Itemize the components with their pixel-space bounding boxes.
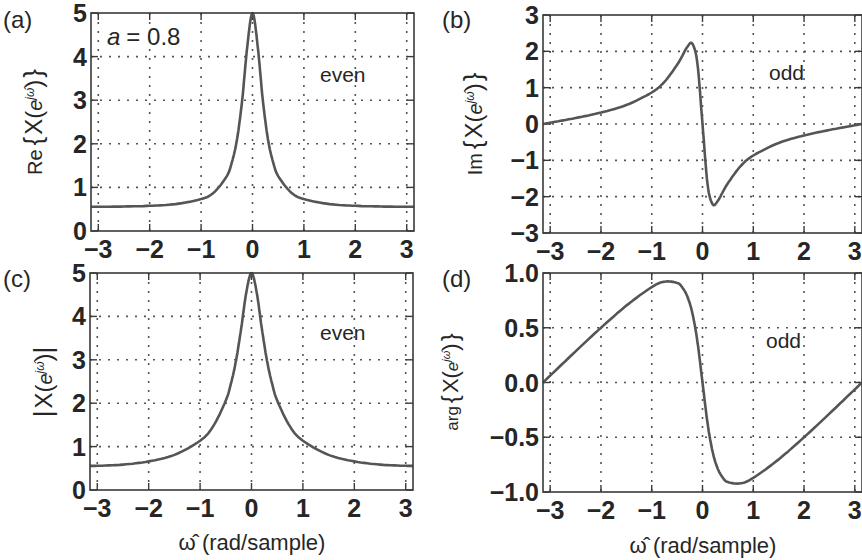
x-tick-label: −3 bbox=[536, 496, 565, 524]
x-tick-label: 1 bbox=[296, 494, 310, 522]
x-tick-label: 3 bbox=[848, 496, 862, 524]
y-tick-label: 0 bbox=[72, 476, 86, 504]
svg-text:arg{X(ejω̂)}: arg{X(ejω̂)} bbox=[436, 333, 463, 430]
y-tick-label: 3 bbox=[73, 86, 87, 114]
panel-label-d: (d) bbox=[442, 265, 471, 292]
x-tick-label: −2 bbox=[587, 496, 616, 524]
y-tick-label: 3 bbox=[525, 1, 539, 29]
x-tick-label: 3 bbox=[400, 235, 414, 263]
y-tick-label: 4 bbox=[73, 43, 87, 71]
y-tick-label: 5 bbox=[72, 259, 86, 287]
y-tick-label: −1.0 bbox=[490, 478, 539, 506]
y-tick-label: −0.5 bbox=[490, 423, 539, 451]
x-tick-label: −1 bbox=[637, 496, 666, 524]
y-tick-label: −3 bbox=[510, 219, 539, 247]
panel-d: (d) −3−2−10123 −1.0−0.50.00.51.0 odd arg… bbox=[436, 259, 862, 558]
x-tick-label: −2 bbox=[134, 494, 163, 522]
y-tick-label: −2 bbox=[510, 183, 539, 211]
parameter-label: a= 0.8 bbox=[107, 23, 180, 50]
y-tick-label: 1 bbox=[72, 433, 86, 461]
x-tick-label: 0 bbox=[696, 237, 710, 265]
x-tick-label: 3 bbox=[848, 237, 862, 265]
y-tick-labels-c: 012345 bbox=[72, 259, 86, 504]
y-tick-label: 0.0 bbox=[504, 369, 539, 397]
x-tick-labels-b: −3−2−10123 bbox=[536, 237, 862, 265]
x-tick-labels-c: −3−2−10123 bbox=[83, 494, 413, 522]
y-tick-label: 5 bbox=[73, 0, 87, 27]
panel-label-c: (c) bbox=[3, 265, 31, 292]
grid-c bbox=[90, 273, 413, 490]
x-tick-label: 2 bbox=[347, 494, 361, 522]
y-tick-label: 2 bbox=[525, 37, 539, 65]
x-tick-label: −3 bbox=[84, 235, 113, 263]
x-tick-label: −2 bbox=[135, 235, 164, 263]
y-tick-label: 2 bbox=[72, 389, 86, 417]
svg-text:Im{X(ejω̂)}: Im{X(ejω̂)} bbox=[458, 72, 488, 175]
figure: (a) −3−2−10123 012345 even a= 0.8 Re{X(e… bbox=[0, 0, 862, 560]
x-tick-labels-d: −3−2−10123 bbox=[536, 496, 862, 524]
parameter-value: = 0.8 bbox=[126, 23, 180, 50]
annotation-a-even: even bbox=[320, 63, 366, 86]
x-tick-label: 2 bbox=[797, 496, 811, 524]
x-tick-label: −1 bbox=[637, 237, 666, 265]
x-tick-label: 1 bbox=[746, 496, 760, 524]
y-tick-label: 2 bbox=[73, 130, 87, 158]
panel-a: (a) −3−2−10123 012345 even a= 0.8 Re{X(e… bbox=[3, 0, 414, 263]
svg-text:Re{X(ejω̂)}: Re{X(ejω̂)} bbox=[18, 69, 48, 175]
annotation-d-odd: odd bbox=[766, 329, 801, 352]
y-axis-label-d: arg{X(ejω̂)} bbox=[436, 333, 463, 430]
x-tick-label: −3 bbox=[536, 237, 565, 265]
y-tick-labels-d: −1.0−0.50.00.51.0 bbox=[490, 259, 539, 506]
y-tick-labels-b: −3−2−10123 bbox=[510, 1, 539, 247]
y-tick-label: −1 bbox=[510, 146, 539, 174]
y-axis-label-b: Im{X(ejω̂)} bbox=[458, 72, 488, 175]
panel-b: (b) −3−2−10123 −3−2−10123 odd Im{X(ejω̂)… bbox=[442, 1, 862, 265]
y-tick-label: 0.5 bbox=[504, 314, 539, 342]
x-tick-label: −1 bbox=[187, 235, 216, 263]
panel-label-a: (a) bbox=[3, 6, 32, 33]
y-tick-label: 1 bbox=[525, 74, 539, 102]
x-tick-label: 0 bbox=[696, 496, 710, 524]
y-tick-label: 0 bbox=[525, 110, 539, 138]
y-tick-label: 4 bbox=[72, 302, 86, 330]
panel-label-b: (b) bbox=[442, 6, 471, 33]
x-tick-label: 2 bbox=[797, 237, 811, 265]
x-tick-label: 0 bbox=[246, 235, 260, 263]
x-tick-labels-a: −3−2−10123 bbox=[84, 235, 414, 263]
svg-text:|X(ejω̂)|: |X(ejω̂)| bbox=[28, 347, 58, 418]
x-tick-label: 2 bbox=[348, 235, 362, 263]
panel-c: (c) −3−2−10123 012345 even |X(ejω̂)| ω̂ … bbox=[3, 259, 413, 555]
x-tick-label: −1 bbox=[186, 494, 215, 522]
y-tick-label: 3 bbox=[72, 346, 86, 374]
x-tick-label: −3 bbox=[83, 494, 112, 522]
x-axis-label-c: ω̂ (rad/sample) bbox=[179, 530, 326, 555]
y-axis-label-c: |X(ejω̂)| bbox=[28, 347, 58, 418]
y-axis-label-a: Re{X(ejω̂)} bbox=[18, 69, 48, 175]
x-tick-label: 3 bbox=[399, 494, 413, 522]
y-tick-label: 1 bbox=[73, 173, 87, 201]
x-tick-label: 1 bbox=[297, 235, 311, 263]
y-tick-labels-a: 012345 bbox=[73, 0, 87, 245]
parameter-symbol: a bbox=[107, 23, 120, 50]
x-axis-label-d: ω̂ (rad/sample) bbox=[630, 533, 777, 558]
x-tick-label: 1 bbox=[746, 237, 760, 265]
y-tick-label: 1.0 bbox=[504, 259, 539, 287]
x-tick-label: −2 bbox=[587, 237, 616, 265]
y-tick-label: 0 bbox=[73, 217, 87, 245]
x-tick-label: 0 bbox=[245, 494, 259, 522]
annotation-c-even: even bbox=[320, 321, 366, 344]
annotation-b-odd: odd bbox=[769, 61, 804, 84]
